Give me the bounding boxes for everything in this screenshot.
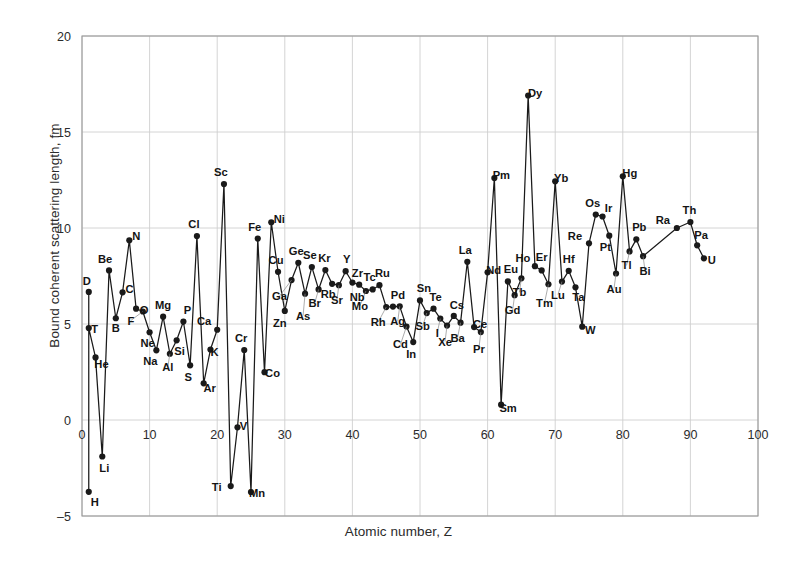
gridlines xyxy=(82,36,758,516)
svg-text:Zr: Zr xyxy=(352,267,364,279)
svg-text:Al: Al xyxy=(162,361,173,373)
svg-text:60: 60 xyxy=(481,428,495,442)
svg-text:Kr: Kr xyxy=(318,252,331,264)
svg-text:Sm: Sm xyxy=(499,402,516,414)
svg-text:N: N xyxy=(132,230,140,242)
svg-text:Ba: Ba xyxy=(450,332,465,344)
svg-text:20: 20 xyxy=(57,30,71,44)
svg-text:10: 10 xyxy=(143,428,157,442)
svg-text:Mg: Mg xyxy=(155,299,171,311)
svg-text:0: 0 xyxy=(64,414,71,428)
svg-text:Tl: Tl xyxy=(622,259,632,271)
svg-text:Cl: Cl xyxy=(188,218,199,230)
svg-text:Pb: Pb xyxy=(632,221,646,233)
svg-text:Au: Au xyxy=(607,283,622,295)
svg-text:V: V xyxy=(240,420,248,432)
svg-text:–5: –5 xyxy=(57,510,71,524)
chart-canvas: 0102030405060708090100 20151050–5 HDTHeL… xyxy=(0,0,797,568)
svg-text:Ce: Ce xyxy=(473,318,487,330)
svg-text:Pd: Pd xyxy=(391,289,405,301)
svg-text:Er: Er xyxy=(536,251,548,263)
svg-text:Hg: Hg xyxy=(622,167,637,179)
svg-text:U: U xyxy=(708,254,716,266)
svg-text:Ru: Ru xyxy=(375,267,390,279)
x-axis-tick-labels: 0102030405060708090100 xyxy=(79,428,769,442)
element-symbol-labels: HDTHeLiBeBCNOFNeNaMgAlSiPSClArKCaScTiVCr… xyxy=(83,87,716,508)
svg-text:Cs: Cs xyxy=(450,299,464,311)
svg-text:In: In xyxy=(406,348,416,360)
svg-text:30: 30 xyxy=(278,428,292,442)
svg-text:Ti: Ti xyxy=(212,481,222,493)
svg-text:Ga: Ga xyxy=(272,290,288,302)
svg-text:20: 20 xyxy=(210,428,224,442)
scattering-length-figure: 0102030405060708090100 20151050–5 HDTHeL… xyxy=(0,0,797,568)
svg-text:Ne: Ne xyxy=(140,337,154,349)
svg-text:F: F xyxy=(127,315,134,327)
svg-text:C: C xyxy=(126,283,134,295)
svg-text:70: 70 xyxy=(548,428,562,442)
svg-text:Te: Te xyxy=(429,291,441,303)
svg-text:Se: Se xyxy=(303,249,317,261)
svg-text:Th: Th xyxy=(683,204,697,216)
svg-text:Gd: Gd xyxy=(505,304,521,316)
svg-text:Ni: Ni xyxy=(274,213,285,225)
svg-text:He: He xyxy=(94,358,108,370)
svg-text:Li: Li xyxy=(99,462,109,474)
svg-text:O: O xyxy=(140,304,149,316)
svg-text:Nd: Nd xyxy=(486,264,501,276)
svg-text:Pm: Pm xyxy=(493,169,510,181)
svg-text:Ho: Ho xyxy=(515,252,530,264)
svg-text:Ra: Ra xyxy=(656,214,671,226)
svg-text:Tb: Tb xyxy=(513,286,527,298)
svg-text:Mn: Mn xyxy=(249,487,265,499)
svg-text:Pa: Pa xyxy=(694,229,708,241)
svg-text:P: P xyxy=(184,304,192,316)
svg-text:Tc: Tc xyxy=(364,271,376,283)
svg-text:Fe: Fe xyxy=(248,221,261,233)
svg-text:Dy: Dy xyxy=(528,87,543,99)
svg-text:H: H xyxy=(91,496,99,508)
svg-text:80: 80 xyxy=(616,428,630,442)
svg-text:0: 0 xyxy=(79,428,86,442)
svg-text:Rh: Rh xyxy=(371,316,386,328)
svg-text:As: As xyxy=(296,310,310,322)
svg-text:Ta: Ta xyxy=(572,291,585,303)
svg-text:Mo: Mo xyxy=(352,300,368,312)
svg-text:Os: Os xyxy=(585,197,600,209)
y-axis-title: Bound coherent scattering length, fm xyxy=(47,86,62,386)
svg-text:Re: Re xyxy=(568,230,582,242)
svg-text:Bi: Bi xyxy=(639,265,650,277)
svg-text:Zn: Zn xyxy=(273,317,287,329)
svg-text:5: 5 xyxy=(64,318,71,332)
svg-text:Ge: Ge xyxy=(289,245,304,257)
svg-text:Sc: Sc xyxy=(214,166,228,178)
svg-text:W: W xyxy=(585,324,596,336)
x-axis-title: Atomic number, Z xyxy=(0,524,797,539)
svg-text:Pr: Pr xyxy=(473,343,485,355)
svg-text:Yb: Yb xyxy=(554,172,568,184)
svg-text:Cu: Cu xyxy=(269,254,284,266)
svg-text:Lu: Lu xyxy=(551,289,565,301)
svg-text:Cr: Cr xyxy=(235,332,248,344)
svg-text:Si: Si xyxy=(174,345,185,357)
svg-text:Ca: Ca xyxy=(197,315,212,327)
svg-text:Co: Co xyxy=(265,367,280,379)
svg-text:90: 90 xyxy=(683,428,697,442)
svg-text:Y: Y xyxy=(343,253,351,265)
svg-text:Ir: Ir xyxy=(605,202,613,214)
svg-text:Sr: Sr xyxy=(331,294,343,306)
svg-text:40: 40 xyxy=(345,428,359,442)
svg-text:S: S xyxy=(184,371,192,383)
svg-text:Na: Na xyxy=(143,355,158,367)
svg-text:Be: Be xyxy=(98,253,112,265)
svg-text:T: T xyxy=(91,323,98,335)
svg-text:Ar: Ar xyxy=(203,382,216,394)
svg-text:Sb: Sb xyxy=(416,320,430,332)
svg-text:D: D xyxy=(83,275,91,287)
svg-text:Hf: Hf xyxy=(563,253,575,265)
svg-text:K: K xyxy=(210,346,218,358)
svg-text:Pt: Pt xyxy=(600,241,611,253)
svg-text:B: B xyxy=(112,322,120,334)
svg-text:La: La xyxy=(459,244,473,256)
svg-text:Br: Br xyxy=(308,297,321,309)
